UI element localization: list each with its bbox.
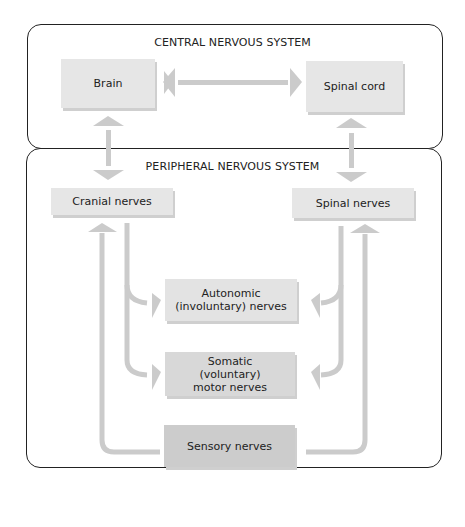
somatic-motor-nerves-box: Somatic (voluntary) motor nerves: [165, 352, 295, 396]
spinal-nerves-box: Spinal nerves: [292, 188, 414, 218]
sensory-nerves-box: Sensory nerves: [164, 425, 295, 467]
spinal-cord-box: Spinal cord: [306, 61, 403, 112]
cranial-nerves-box: Cranial nerves: [51, 188, 173, 215]
pns-title: PERIPHERAL NERVOUS SYSTEM: [0, 160, 465, 173]
brain-box: Brain: [61, 59, 155, 108]
autonomic-nerves-box: Autonomic (involuntary) nerves: [165, 279, 297, 321]
cns-title: CENTRAL NERVOUS SYSTEM: [0, 36, 465, 49]
